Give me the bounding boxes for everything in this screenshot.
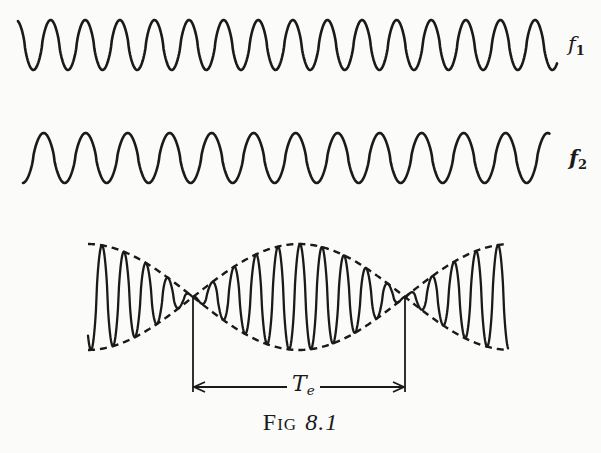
label-f2-sub: 2	[578, 157, 587, 172]
caption-number: 8.1	[305, 409, 338, 435]
label-f2: f2	[569, 147, 587, 171]
wave-f2	[23, 133, 549, 183]
label-te-main: T	[292, 371, 307, 396]
beat-waveform	[88, 244, 508, 350]
wave-f1	[18, 20, 557, 70]
figure-caption: Fig8.1	[0, 409, 601, 436]
label-f1: f1	[568, 34, 585, 57]
label-f1-sub: 1	[576, 43, 585, 58]
label-f2-main: f	[569, 145, 578, 170]
label-te-sub: e	[307, 382, 315, 398]
caption-prefix: Fig	[263, 409, 297, 435]
label-f1-main: f	[568, 32, 576, 56]
label-beat-period: Te	[287, 373, 320, 398]
figure-canvas: f1 f2 Te Fig8.1	[0, 0, 601, 453]
